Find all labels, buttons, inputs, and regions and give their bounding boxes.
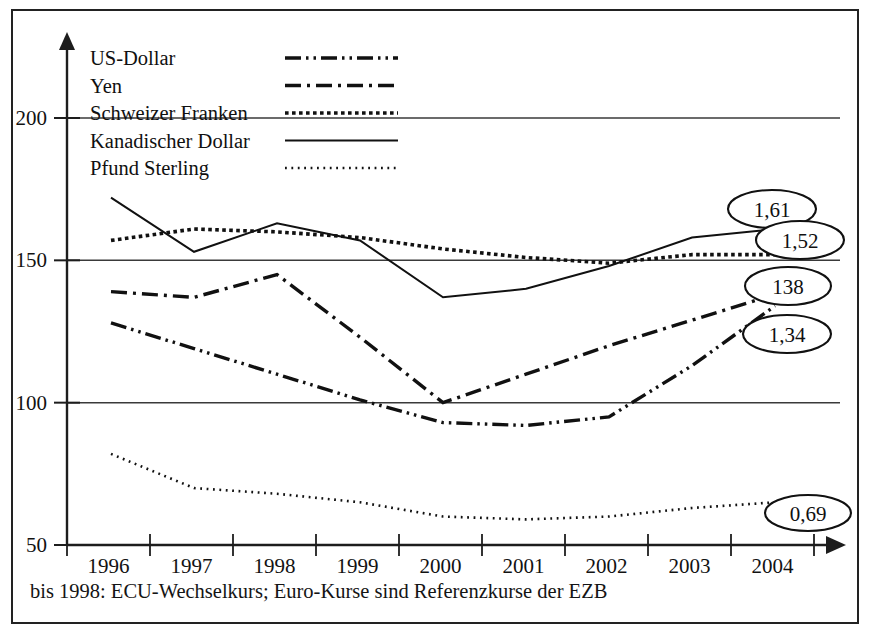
legend-label-pfund-sterling: Pfund Sterling — [90, 157, 209, 180]
callout-152-label: 1,52 — [782, 229, 819, 253]
x-axis-ticks: 199619971998199920002001200220032004 — [67, 534, 814, 578]
value-callouts: 1,611,521381,340,69 — [728, 190, 851, 531]
x-tick-label-2002: 2002 — [586, 554, 628, 578]
chart-footnote: bis 1998: ECU-Wechselkurs; Euro-Kurse si… — [30, 580, 607, 603]
y-tick-label-100: 100 — [16, 391, 48, 415]
x-tick-label-1996: 1996 — [88, 554, 130, 578]
y-tick-label-50: 50 — [26, 533, 47, 557]
callout-069-label: 0,69 — [790, 502, 827, 526]
legend-label-us-dollar: US-Dollar — [90, 47, 176, 69]
legend-label-kanadischer-dollar: Kanadischer Dollar — [90, 130, 250, 152]
exchange-rate-chart-figure: 50100150200 1996199719981999200020012002… — [0, 0, 870, 634]
series-line-yen — [111, 275, 775, 403]
legend-label-yen: Yen — [90, 75, 122, 97]
y-tick-label-200: 200 — [16, 106, 48, 130]
callout-134-label: 1,34 — [769, 323, 806, 347]
y-tick-label-150: 150 — [16, 248, 48, 272]
x-tick-label-2003: 2003 — [669, 554, 711, 578]
series-line-pfund-sterling — [111, 454, 775, 519]
x-tick-label-2004: 2004 — [752, 554, 795, 578]
x-tick-label-2000: 2000 — [420, 554, 462, 578]
y-axis-ticks: 50100150200 — [16, 106, 81, 557]
y-axis-arrow-icon — [59, 32, 75, 50]
chart-legend: US-DollarYenSchweizer FrankenKanadischer… — [90, 47, 398, 180]
chart-plot-area: 50100150200 1996199719981999200020012002… — [0, 0, 870, 634]
x-tick-label-1997: 1997 — [171, 554, 213, 578]
callout-138-label: 138 — [772, 275, 804, 299]
series-line-kanadischer-dollar — [111, 198, 775, 298]
data-series — [111, 198, 775, 520]
legend-label-schweizer-franken: Schweizer Franken — [90, 102, 248, 124]
x-tick-label-2001: 2001 — [503, 554, 545, 578]
callout-161-label: 1,61 — [754, 198, 791, 222]
x-tick-label-1999: 1999 — [337, 554, 379, 578]
x-tick-label-1998: 1998 — [254, 554, 296, 578]
x-axis-arrow-icon — [826, 536, 846, 554]
